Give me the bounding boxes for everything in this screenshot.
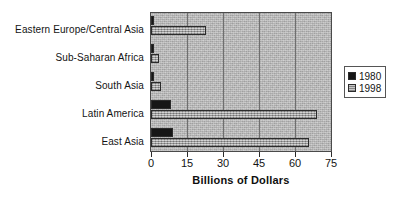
legend-item-1998: 1998: [348, 82, 381, 94]
legend-swatch-1998-icon: [348, 84, 356, 92]
gridline: [331, 13, 332, 151]
x-axis-tick-label: 0: [136, 157, 166, 170]
bar-1980-latin-america: [151, 100, 171, 109]
x-axis-tick-label: 45: [244, 157, 274, 170]
legend-swatch-1980-icon: [348, 72, 356, 80]
category-axis-labels: Eastern Europe/Central Asia Sub-Saharan …: [0, 12, 148, 152]
bar-1998-sub-saharan-africa: [151, 54, 159, 63]
x-axis-tick-label: 60: [280, 157, 310, 170]
bar-row: [151, 41, 331, 69]
legend-label-1980: 1980: [359, 71, 381, 82]
bar-row: [151, 13, 331, 41]
bar-1980-eastern-europe-central-asia: [151, 16, 154, 25]
legend: 1980 1998: [344, 66, 386, 98]
x-axis-tick-label: 30: [208, 157, 238, 170]
legend-label-1998: 1998: [359, 83, 381, 94]
plot-area: [150, 12, 332, 152]
legend-item-1980: 1980: [348, 70, 381, 82]
x-axis-tick-label: 15: [172, 157, 202, 170]
x-axis-title: Billions of Dollars: [150, 174, 332, 186]
x-axis-tick-label: 75: [316, 157, 346, 170]
category-label: South Asia: [0, 80, 144, 91]
bar-1980-east-asia: [151, 128, 173, 137]
bar-row: [151, 97, 331, 125]
category-label: East Asia: [0, 136, 144, 147]
bar-1980-sub-saharan-africa: [151, 44, 154, 53]
bar-row: [151, 69, 331, 97]
category-label: Latin America: [0, 108, 144, 119]
bar-1998-east-asia: [151, 138, 309, 147]
category-label: Sub-Saharan Africa: [0, 52, 144, 63]
bar-1980-south-asia: [151, 72, 154, 81]
bar-1998-eastern-europe-central-asia: [151, 26, 206, 35]
category-label: Eastern Europe/Central Asia: [0, 24, 144, 35]
x-axis-tick-labels: 01530456075: [150, 157, 332, 171]
bar-1998-south-asia: [151, 82, 161, 91]
bar-row: [151, 125, 331, 152]
bar-1998-latin-america: [151, 110, 317, 119]
